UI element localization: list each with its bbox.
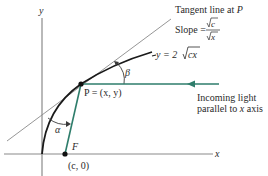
focus-dot xyxy=(62,151,67,156)
light-caption-prefix: parallel to xyxy=(197,103,240,114)
alpha-label: α xyxy=(55,124,61,135)
light-caption-line2: parallel to x axis xyxy=(197,103,263,114)
slope-denominator: x xyxy=(210,32,215,42)
diagram-canvas: y x α β P = (x, y) F (c, 0) y = 2 cx Tan… xyxy=(0,0,268,176)
tangent-caption: Tangent line at P xyxy=(175,4,243,15)
light-caption-line1: Incoming light xyxy=(197,92,256,103)
tangent-caption-point: P xyxy=(236,4,243,15)
point-p-dot xyxy=(78,81,83,86)
focus-coordinates: (c, 0) xyxy=(68,160,89,172)
curve-radicand: cx xyxy=(188,49,197,60)
y-axis-label: y xyxy=(38,5,44,16)
curve-equation: y = 2 xyxy=(155,49,177,60)
slope-label: Slope = xyxy=(175,24,206,35)
tangent-caption-text: Tangent line at xyxy=(175,4,237,15)
light-direction-arrow-icon xyxy=(187,81,195,88)
beta-angle-arc xyxy=(117,63,124,84)
curve-equation-lhs: y = 2 xyxy=(155,49,177,60)
point-p-label: P = (x, y) xyxy=(84,87,122,99)
alpha-arrow-icon xyxy=(66,121,71,127)
x-axis-label: x xyxy=(214,148,220,159)
slope-numerator: c xyxy=(211,19,215,29)
light-caption-suffix: axis xyxy=(244,103,263,114)
beta-label: β xyxy=(124,67,130,78)
focus-letter: F xyxy=(71,141,79,152)
